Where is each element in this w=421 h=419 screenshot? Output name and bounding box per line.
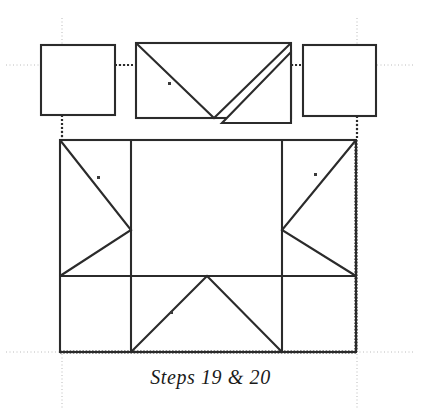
top-right-square <box>303 45 376 116</box>
folding-diagram-svg <box>0 0 421 419</box>
main-body-rectangle <box>60 140 357 352</box>
figure-caption: Steps 19 & 20 <box>0 366 421 389</box>
top-left-square <box>41 45 115 115</box>
fold-tick-icon-right-panel <box>314 173 317 176</box>
fold-tick-icon-left-panel <box>97 176 100 179</box>
top-right-square-outline <box>303 45 376 116</box>
fold-tick-icon-bottom-peak <box>170 311 173 314</box>
fold-tick-icon-middle-rect <box>168 82 171 85</box>
top-middle-rectangle <box>136 43 291 123</box>
diagram-canvas: Steps 19 & 20 <box>0 0 421 419</box>
top-left-square-outline <box>41 45 115 115</box>
